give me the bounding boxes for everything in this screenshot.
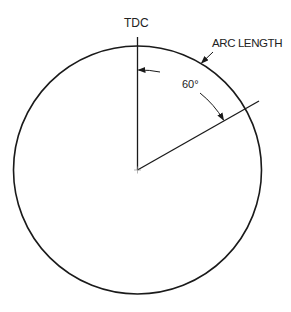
- angle-dimension-arc-right: [200, 93, 224, 120]
- arc-length-diagram: 60° TDC ARC LENGTH: [0, 0, 291, 312]
- arc-length-label: ARC LENGTH: [212, 37, 282, 49]
- arc-length-leader: [202, 52, 214, 63]
- angle-label: 60°: [182, 78, 199, 90]
- center-mark: [134, 167, 141, 174]
- angle-dimension-arc-left: [139, 70, 161, 72]
- angle-radial-line: [138, 101, 260, 170]
- tdc-label: TDC: [124, 16, 149, 30]
